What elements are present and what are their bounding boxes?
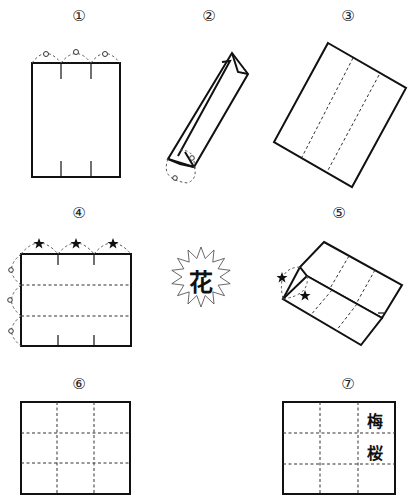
step-4-figure — [8, 238, 131, 346]
step-number-1: ① — [69, 8, 89, 24]
step-number-7: ⑦ — [338, 376, 358, 392]
step-number-4: ④ — [69, 205, 89, 221]
step-number-2: ② — [199, 8, 219, 24]
circle-mark-icon — [9, 329, 14, 334]
star-mark-icon — [108, 238, 119, 249]
circle-mark-icon — [103, 52, 108, 57]
circle-mark-icon — [44, 52, 49, 57]
circle-mark-icon — [190, 156, 195, 161]
kanji-sakura: 桜 — [367, 440, 383, 464]
circle-mark-icon — [9, 268, 14, 273]
step-2-figure — [166, 53, 248, 183]
star-mark-icon — [34, 238, 45, 249]
circle-mark-icon — [8, 298, 13, 303]
burst-kanji-hana: 花 — [189, 263, 213, 298]
star-mark-icon — [71, 238, 82, 249]
step-number-6: ⑥ — [69, 376, 89, 392]
step-1-figure — [32, 50, 120, 178]
circle-mark-icon — [173, 176, 178, 181]
step-number-3: ③ — [338, 8, 358, 24]
diagram-canvas: ① ② ③ ④ ⑤ ⑥ ⑦ 花 梅 桜 — [0, 0, 411, 503]
kanji-ume: 梅 — [367, 408, 383, 432]
step-number-5: ⑤ — [329, 205, 349, 221]
circle-mark-icon — [74, 50, 79, 55]
step-3-figure — [274, 43, 406, 187]
step-6-figure — [21, 402, 130, 494]
step-5-figure — [277, 242, 403, 345]
